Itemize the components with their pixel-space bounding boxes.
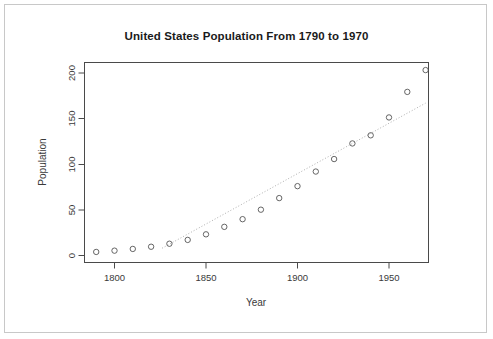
y-tick-label: 200	[66, 65, 77, 81]
data-point	[167, 241, 172, 246]
x-axis-tick-labels: 1800 1850 1900 1950	[104, 272, 400, 283]
x-tick-label: 1800	[104, 272, 125, 283]
y-axis-title: Population	[37, 138, 48, 185]
data-point	[350, 141, 355, 146]
data-point	[277, 195, 282, 200]
data-point	[240, 216, 245, 221]
y-tick-label: 50	[66, 205, 77, 216]
plot-area: 0 50 100 150 200 Population 1800 1850 19…	[0, 0, 493, 339]
y-axis-tick-labels: 0 50 100 150 200	[66, 65, 77, 258]
y-tick-label: 100	[66, 157, 77, 173]
data-point	[222, 224, 227, 229]
y-tick-label: 150	[66, 111, 77, 127]
data-point	[368, 133, 373, 138]
y-axis-ticks	[79, 73, 85, 256]
data-points	[94, 67, 429, 254]
x-axis-title: Year	[246, 297, 267, 308]
data-point	[258, 207, 263, 212]
data-point	[313, 169, 318, 174]
data-point	[203, 232, 208, 237]
data-point	[185, 237, 190, 242]
plot-frame	[85, 63, 429, 263]
data-point	[112, 248, 117, 253]
data-point	[405, 89, 410, 94]
data-point	[331, 156, 336, 161]
data-point	[148, 244, 153, 249]
data-point	[94, 249, 99, 254]
data-point	[130, 246, 135, 251]
x-tick-label: 1850	[195, 272, 216, 283]
data-point	[295, 183, 300, 188]
data-point	[423, 67, 428, 72]
x-tick-label: 1950	[378, 272, 399, 283]
data-point	[386, 115, 391, 120]
chart-screenshot: United States Population From 1790 to 19…	[0, 0, 493, 339]
x-tick-label: 1900	[287, 272, 308, 283]
trend-line	[162, 103, 426, 248]
x-axis-ticks	[115, 263, 390, 269]
y-tick-label: 0	[66, 253, 77, 258]
